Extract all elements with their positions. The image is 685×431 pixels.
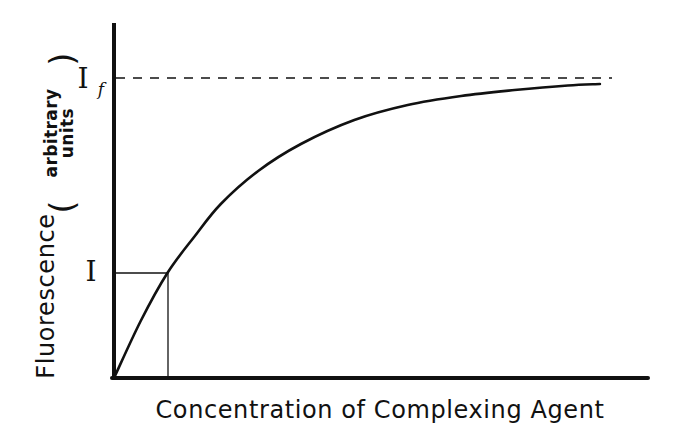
y-axis-units-label: arbitrary units ) (	[41, 52, 82, 213]
chart-canvas: I I f Fluorescence arbitrary units ) ( C…	[0, 0, 685, 431]
fluorescence-curve	[114, 84, 600, 378]
paren-open: (	[42, 200, 82, 213]
if-label-subscript: f	[96, 79, 107, 99]
if-label-main: I	[77, 62, 88, 95]
paren-close: )	[42, 52, 82, 65]
x-axis-label: Concentration of Complexing Agent	[155, 396, 604, 424]
y-axis-units-line2: units	[57, 108, 77, 158]
i-label: I	[85, 255, 96, 288]
y-axis-label: Fluorescence	[32, 213, 60, 378]
if-label: I f	[77, 62, 106, 99]
chart: I I f Fluorescence arbitrary units ) ( C…	[0, 0, 685, 431]
